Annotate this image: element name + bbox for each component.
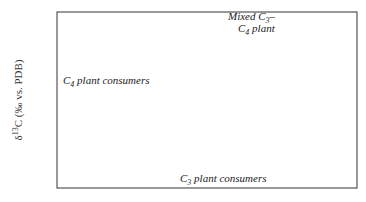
label-c4: C4 plant consumers bbox=[63, 74, 150, 89]
y-axis-label: δ13C (‰ vs. PDB) bbox=[11, 59, 25, 140]
plot-frame bbox=[57, 12, 357, 188]
label-c3: C3 plant consumers bbox=[180, 172, 267, 187]
label-mixed-2: C4 plant bbox=[238, 22, 276, 37]
chart: δ13C (‰ vs. PDB) C4 plant consumers C3 p… bbox=[0, 0, 366, 202]
